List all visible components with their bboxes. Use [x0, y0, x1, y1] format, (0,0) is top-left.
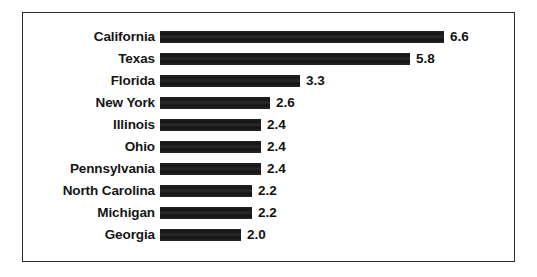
- bar-track: 2.4: [160, 136, 516, 158]
- bar-row: Pennsylvania2.4: [23, 158, 516, 180]
- bar-value-label: 2.4: [267, 162, 286, 176]
- bar-value-label: 2.4: [267, 140, 286, 154]
- bar-track: 3.3: [160, 70, 516, 92]
- bar-value-label: 2.2: [258, 184, 277, 198]
- bar-category-label: New York: [23, 96, 160, 110]
- bar: [160, 163, 261, 175]
- chart-frame-border: California6.6Texas5.8Florida3.3New York2…: [22, 12, 515, 262]
- bar-category-label: Ohio: [23, 140, 160, 154]
- bar: [160, 119, 261, 131]
- bar-value-label: 2.4: [267, 118, 286, 132]
- bar-value-label: 5.8: [416, 52, 435, 66]
- bar-value-label: 2.0: [247, 228, 266, 242]
- bar-value-label: 2.2: [258, 206, 277, 220]
- bar: [160, 141, 261, 153]
- bar-value-label: 3.3: [306, 74, 325, 88]
- bar-row: North Carolina2.2: [23, 180, 516, 202]
- bar-category-label: North Carolina: [23, 184, 160, 198]
- bar-category-label: Michigan: [23, 206, 160, 220]
- bar-category-label: Illinois: [23, 118, 160, 132]
- bar-row: Michigan2.2: [23, 202, 516, 224]
- plot-area: California6.6Texas5.8Florida3.3New York2…: [23, 26, 516, 252]
- bar-value-label: 2.6: [276, 96, 295, 110]
- bar-row: Ohio2.4: [23, 136, 516, 158]
- bar-chart-figure: California6.6Texas5.8Florida3.3New York2…: [0, 0, 537, 277]
- bar-row: New York2.6: [23, 92, 516, 114]
- bar: [160, 97, 270, 109]
- bar-category-label: Pennsylvania: [23, 162, 160, 176]
- bar-row: Florida3.3: [23, 70, 516, 92]
- bar-row: California6.6: [23, 26, 516, 48]
- bar-category-label: Texas: [23, 52, 160, 66]
- bar-category-label: Georgia: [23, 228, 160, 242]
- bar-track: 5.8: [160, 48, 516, 70]
- bar-category-label: California: [23, 30, 160, 44]
- bar: [160, 53, 410, 65]
- bar-row: Georgia2.0: [23, 224, 516, 246]
- bar-track: 2.2: [160, 180, 516, 202]
- bar-track: 6.6: [160, 26, 516, 48]
- bar-track: 2.6: [160, 92, 516, 114]
- bar-category-label: Florida: [23, 74, 160, 88]
- bar-track: 2.4: [160, 114, 516, 136]
- bar-track: 2.2: [160, 202, 516, 224]
- bar-row: Texas5.8: [23, 48, 516, 70]
- bar-row: Illinois2.4: [23, 114, 516, 136]
- bar: [160, 229, 241, 241]
- bar: [160, 75, 300, 87]
- bar: [160, 31, 444, 43]
- bar: [160, 185, 252, 197]
- bar-value-label: 6.6: [450, 30, 469, 44]
- bar-track: 2.4: [160, 158, 516, 180]
- bar: [160, 207, 252, 219]
- bar-track: 2.0: [160, 224, 516, 246]
